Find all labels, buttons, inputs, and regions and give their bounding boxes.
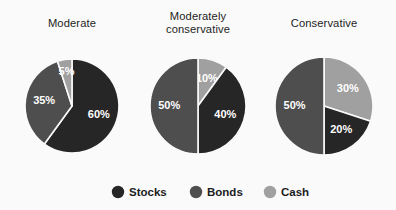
slice-label-cash: 30% — [337, 82, 359, 94]
slice-label-stocks: 40% — [214, 108, 236, 120]
legend-item-stocks[interactable]: Stocks — [112, 186, 167, 199]
slice-label-bonds: 35% — [33, 94, 55, 106]
legend-label-cash: Cash — [281, 186, 309, 198]
slice-label-stocks: 60% — [88, 108, 110, 120]
legend-label-bonds: Bonds — [207, 186, 243, 198]
slice-label-bonds: 50% — [158, 99, 180, 111]
chart-title-1: Moderate — [48, 17, 96, 29]
legend-swatch-stocks-icon — [112, 186, 124, 198]
legend-item-bonds[interactable]: Bonds — [190, 186, 243, 199]
legend-swatch-cash-icon — [264, 186, 276, 198]
chart-title-3: Conservative — [291, 17, 358, 29]
legend-item-cash[interactable]: Cash — [264, 186, 309, 199]
slice-label-stocks: 20% — [330, 123, 352, 135]
slice-label-cash: 5% — [59, 65, 75, 77]
allocation-pie-chart-figure: Moderate60%35%5%Moderatelyconservative10… — [0, 0, 396, 210]
legend-swatch-bonds-icon — [190, 186, 202, 198]
chart-title-2: Moderately — [170, 10, 227, 22]
legend-label-stocks: Stocks — [129, 186, 167, 198]
slice-label-bonds: 50% — [284, 99, 306, 111]
chart-title-2: conservative — [166, 23, 230, 35]
